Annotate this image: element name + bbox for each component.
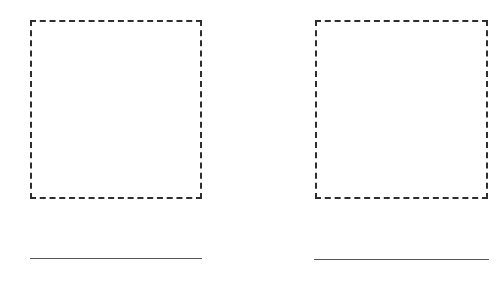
- right-panel: [314, 0, 494, 305]
- left-image-placeholder[interactable]: [30, 20, 202, 199]
- left-caption-line: [30, 258, 202, 259]
- right-caption-line: [314, 259, 489, 260]
- right-image-placeholder[interactable]: [315, 20, 488, 199]
- left-panel: [30, 0, 210, 305]
